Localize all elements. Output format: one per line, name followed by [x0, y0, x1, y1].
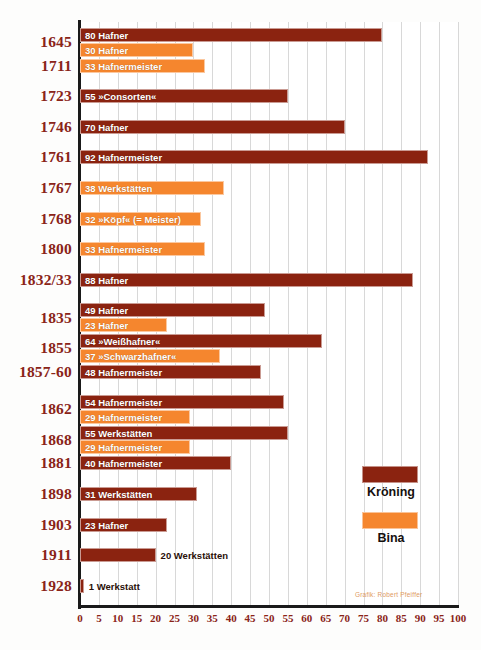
bar-kroening: 55 Werkstätten	[80, 426, 288, 440]
bar-kroening: 23 Hafner	[80, 518, 167, 532]
bar-kroening: 31 Werkstätten	[80, 487, 197, 501]
bar-value-label: 32 »Köpf« (= Meister)	[85, 213, 181, 224]
chart-row: 171133 Hafnermeister	[0, 59, 481, 73]
bar-value-label: 33 Hafnermeister	[85, 60, 162, 71]
bar-value-label: 48 Hafnermeister	[85, 366, 162, 377]
x-tick-label: 25	[169, 612, 180, 624]
x-tick-label: 35	[207, 612, 218, 624]
bar-kroening: 48 Hafnermeister	[80, 365, 261, 379]
chart-row: 186254 Hafnermeister29 Hafnermeister	[0, 395, 481, 424]
x-tick-label: 30	[188, 612, 199, 624]
x-tick-label: 45	[245, 612, 256, 624]
x-tick-label: 65	[320, 612, 331, 624]
x-tick-label: 85	[396, 612, 407, 624]
chart-row: 185564 »Weißhafner«37 »Schwarzhafner«	[0, 334, 481, 363]
bar-kroening: 20 Werkstätten	[80, 548, 156, 562]
year-label: 1903	[40, 516, 72, 534]
bar-value-label: 55 Werkstätten	[85, 427, 152, 438]
bar-bina: 29 Hafnermeister	[80, 410, 190, 424]
year-label: 1898	[40, 485, 72, 503]
year-label: 1645	[40, 33, 72, 51]
chart-legend: KröningBina	[362, 466, 442, 558]
bar-bina: 29 Hafnermeister	[80, 440, 190, 454]
bar-value-label: 37 »Schwarzhafner«	[85, 350, 176, 361]
legend-item-kroening: Kröning	[362, 466, 442, 499]
bar-value-label: 30 Hafner	[85, 44, 128, 55]
x-tick-label: 80	[377, 612, 388, 624]
chart-row: 176738 Werkstätten	[0, 181, 481, 195]
x-tick-label: 0	[77, 612, 83, 624]
bar-kroening: 92 Hafnermeister	[80, 150, 428, 164]
chart-row: 1832/3388 Hafner	[0, 273, 481, 287]
bar-bina: 38 Werkstätten	[80, 181, 224, 195]
legend-item-bina: Bina	[362, 512, 442, 545]
bar-value-label: 23 Hafner	[85, 319, 128, 330]
year-label: 1835	[40, 309, 72, 327]
x-tick-label: 10	[112, 612, 123, 624]
x-tick-label: 40	[226, 612, 237, 624]
chart-row: 186855 Werkstätten29 Hafnermeister	[0, 426, 481, 455]
x-tick-label: 90	[415, 612, 426, 624]
bar-bina: 33 Hafnermeister	[80, 242, 205, 256]
bar-kroening: 70 Hafner	[80, 120, 345, 134]
x-tick-label: 75	[358, 612, 369, 624]
bar-value-label: 40 Hafnermeister	[85, 458, 162, 469]
year-label: 1928	[40, 577, 72, 595]
year-label: 1746	[40, 118, 72, 136]
chart-row: 174670 Hafner	[0, 120, 481, 134]
bar-bina: 37 »Schwarzhafner«	[80, 349, 220, 363]
legend-label: Bina	[362, 531, 420, 545]
bar-kroening: 80 Hafner	[80, 28, 382, 42]
chart-row: 183549 Hafner23 Hafner	[0, 303, 481, 332]
year-label: 1857-60	[19, 363, 72, 381]
year-label: 1855	[40, 339, 72, 357]
bar-value-label: 1 Werkstatt	[89, 580, 140, 591]
legend-label: Kröning	[362, 485, 420, 499]
year-label: 1761	[40, 148, 72, 166]
x-tick-label: 100	[450, 612, 467, 624]
chart-row: 172355 »Consorten«	[0, 89, 481, 103]
x-axis-ticks: 0510152025303540455055606570758085909510…	[0, 612, 481, 632]
bar-value-label: 29 Hafnermeister	[85, 411, 162, 422]
chart-row: 164580 Hafner30 Hafner	[0, 28, 481, 57]
bar-kroening: 40 Hafnermeister	[80, 456, 231, 470]
bar-kroening: 64 »Weißhafner«	[80, 334, 322, 348]
bar-bina: 23 Hafner	[80, 318, 167, 332]
bar-value-label: 55 »Consorten«	[85, 91, 156, 102]
bar-value-label: 64 »Weißhafner«	[85, 336, 160, 347]
year-label: 1868	[40, 431, 72, 449]
legend-swatch-bina	[362, 512, 418, 529]
bar-value-label: 38 Werkstätten	[85, 183, 152, 194]
bar-kroening: 88 Hafner	[80, 273, 413, 287]
chart-row: 176192 Hafnermeister	[0, 150, 481, 164]
x-tick-label: 50	[264, 612, 275, 624]
bar-bina: 30 Hafner	[80, 43, 193, 57]
bar-kroening: 49 Hafner	[80, 303, 265, 317]
bar-value-label: 23 Hafner	[85, 519, 128, 530]
bar-value-label: 29 Hafnermeister	[85, 442, 162, 453]
chart-container: 164580 Hafner30 Hafner171133 Hafnermeist…	[0, 0, 481, 650]
x-tick-label: 60	[301, 612, 312, 624]
x-tick-label: 15	[131, 612, 142, 624]
bar-kroening: 55 »Consorten«	[80, 89, 288, 103]
year-label: 1911	[41, 546, 72, 564]
credit-text: Grafik: Robert Pfeiffer	[355, 591, 422, 598]
bar-value-label: 31 Werkstätten	[85, 489, 152, 500]
bar-value-label: 20 Werkstätten	[161, 550, 228, 561]
chart-row: 180033 Hafnermeister	[0, 242, 481, 256]
x-tick-label: 95	[434, 612, 445, 624]
chart-row: 176832 »Köpf« (= Meister)	[0, 212, 481, 226]
year-label: 1881	[40, 454, 72, 472]
year-label: 1768	[40, 210, 72, 228]
year-label: 1723	[40, 87, 72, 105]
bar-kroening: 54 Hafnermeister	[80, 395, 284, 409]
bar-value-label: 33 Hafnermeister	[85, 244, 162, 255]
year-label: 1832/33	[20, 271, 72, 289]
year-label: 1711	[41, 57, 72, 75]
x-tick-label: 5	[96, 612, 102, 624]
x-tick-label: 55	[282, 612, 293, 624]
chart-row: 1857-6048 Hafnermeister	[0, 365, 481, 379]
year-label: 1800	[40, 240, 72, 258]
year-label: 1767	[40, 179, 72, 197]
bar-value-label: 54 Hafnermeister	[85, 397, 162, 408]
